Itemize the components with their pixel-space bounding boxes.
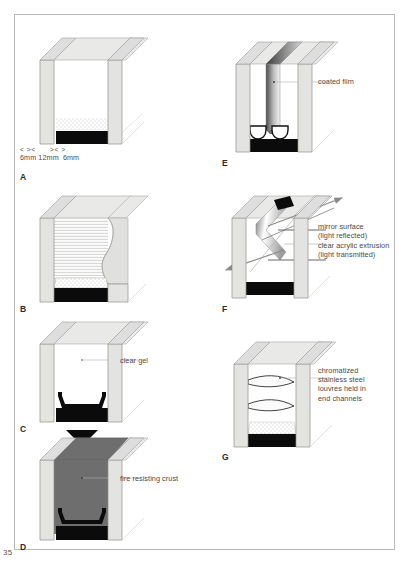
callout-mirror-surface: mirror surface (light reflected) xyxy=(318,222,367,240)
figure-d-drawing xyxy=(20,434,200,554)
callout-fire-resisting-crust: fire resisting crust xyxy=(120,474,178,483)
figure-f: mirror surface (light reflected) clear a… xyxy=(222,186,407,316)
callout-clear-acrylic-extrusion: clear acrylic extrusion (light transmitt… xyxy=(318,241,389,259)
figure-c-drawing xyxy=(20,318,200,438)
callout-clear-gel: clear gel xyxy=(120,356,148,365)
figure-g-label: G xyxy=(222,452,229,462)
figure-a-label: A xyxy=(20,172,26,182)
figure-c-label: C xyxy=(20,424,26,434)
figure-a: < >< >< > 6mm 12mm 6mm A xyxy=(20,34,200,154)
figure-e-drawing xyxy=(222,34,407,164)
page-number: 35 xyxy=(3,548,12,557)
figure-c: clear gel C xyxy=(20,318,200,438)
figure-b-drawing xyxy=(20,192,200,312)
figure-b-label: B xyxy=(20,304,26,314)
dimension-markers: < >< >< > xyxy=(20,146,66,153)
figure-d: fire resisting crust D xyxy=(20,434,200,554)
diagram-page: 35 xyxy=(0,0,411,570)
figure-g: chromatized stainless steel louvres held… xyxy=(222,330,407,460)
callout-louvres: chromatized stainless steel louvres held… xyxy=(318,366,366,403)
dimension-label: 6mm 12mm 6mm xyxy=(20,153,79,162)
figure-g-drawing xyxy=(222,330,407,460)
figure-e-label: E xyxy=(222,158,228,168)
figure-b: B xyxy=(20,192,200,312)
callout-coated-film: coated film xyxy=(318,77,354,86)
figure-f-label: F xyxy=(222,304,228,314)
figure-e: coated film E xyxy=(222,34,407,164)
figure-a-drawing xyxy=(20,34,200,154)
figure-d-label: D xyxy=(20,542,26,552)
